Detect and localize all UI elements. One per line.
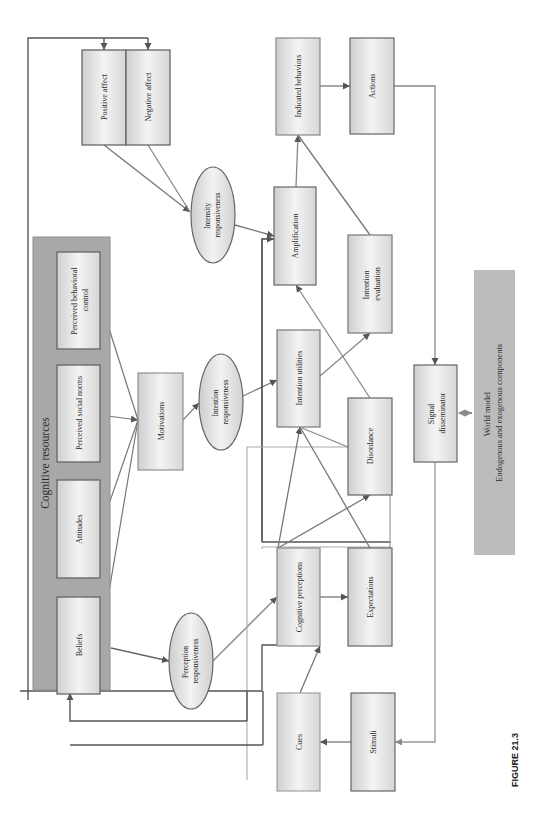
svg-text:Positive affect: Positive affect <box>100 73 109 120</box>
dark-feedback-line <box>262 239 274 542</box>
node-amplification: Amplification <box>274 187 316 285</box>
node-cognitive-perceptions: Cognitive perceptions <box>277 548 320 646</box>
node-motivations: Motivations <box>138 373 183 470</box>
node-signal-disseminator: Signal disseminator <box>414 365 457 462</box>
svg-text:Expectations: Expectations <box>366 576 375 617</box>
svg-text:Attitudes: Attitudes <box>75 514 84 543</box>
svg-text:Stimuli: Stimuli <box>369 729 378 753</box>
node-intention-responsiveness: Intention responsiveness <box>199 354 243 450</box>
node-disordance: Disordance <box>348 398 392 495</box>
svg-text:Actions: Actions <box>368 74 377 99</box>
svg-text:Intention utilities: Intention utilities <box>295 351 304 406</box>
svg-text:Motivations: Motivations <box>157 402 166 441</box>
svg-text:Cues: Cues <box>295 734 304 750</box>
node-intention-utilities: Intention utilities <box>277 330 320 427</box>
cognitive-resources-label: Cognitive resources <box>39 417 52 509</box>
node-cues: Cues <box>277 693 320 791</box>
node-intensity-responsiveness: Intensity responsiveness <box>191 167 235 263</box>
node-perceived-behavioral-control: Perceived behavioral control <box>57 252 100 349</box>
svg-text:Cognitive perceptions: Cognitive perceptions <box>295 562 304 632</box>
svg-text:Perception responsivenes: Perception responsiveness <box>181 638 200 683</box>
node-stimuli: Stimuli <box>351 693 395 791</box>
diagram-canvas: Cognitive resources Positive affect Nega… <box>0 0 545 823</box>
svg-text:Amplification: Amplification <box>291 214 300 259</box>
svg-text:Indicated behaviors: Indicated behaviors <box>294 55 303 118</box>
node-beliefs: Beliefs <box>57 597 100 694</box>
node-indicated-behaviors: Indicated behaviors <box>276 38 320 135</box>
node-negative-affect: Negative affect <box>126 50 170 145</box>
svg-text:Negative affect: Negative affect <box>144 72 153 122</box>
node-actions: Actions <box>350 38 394 134</box>
node-world-model: World model Endogenous and exogenous com… <box>474 270 515 555</box>
node-expectations: Expectations <box>348 548 392 646</box>
node-perception-responsiveness: Perception responsiveness <box>169 613 213 709</box>
figure-caption: FIGURE 21.3 <box>510 733 520 787</box>
node-perceived-social-norms: Perceived social norms <box>57 365 100 462</box>
svg-text:Beliefs: Beliefs <box>75 634 84 657</box>
node-attitudes: Attitudes <box>57 480 100 578</box>
svg-text:Disordance: Disordance <box>366 427 375 464</box>
node-positive-affect: Positive affect <box>82 50 126 145</box>
svg-text:Perceived social norms: Perceived social norms <box>75 376 84 450</box>
node-intention-evaluation: Intention evaluation <box>348 235 392 333</box>
